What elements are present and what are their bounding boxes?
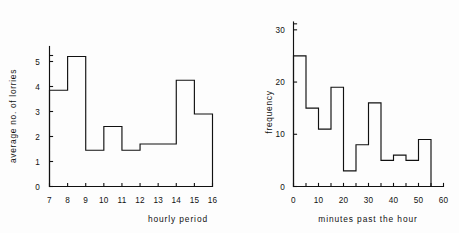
x-axis-tick-label: 14 [172,196,182,205]
x-axis-tick-label: 9 [83,196,88,205]
x-axis-tick-label: 10 [99,196,109,205]
x-axis-tick-label: 30 [364,196,374,205]
x-axis-tick-label: 0 [291,196,296,205]
x-axis-tick-label: 13 [153,196,163,205]
y-axis-tick-label: 20 [275,78,285,87]
x-axis-tick-label: 10 [314,196,324,205]
x-axis-tick-label: 7 [47,196,52,205]
x-axis-tick-label: 60 [439,196,449,205]
y-axis-tick-label: 1 [35,158,40,167]
y-axis-tick-label: 3 [35,108,40,117]
x-axis-tick-label: 15 [190,196,200,205]
two-panel-histogram-figure: 01234578910111213141516hourly periodaver… [0,0,459,233]
x-axis-tick-label: 20 [339,196,349,205]
x-axis-title: minutes past the hour [318,214,417,224]
y-axis-tick-label: 10 [275,130,285,139]
figure-root: 01234578910111213141516hourly periodaver… [0,0,459,233]
histogram-outline [294,56,432,187]
y-axis-tick-label: 0 [280,183,285,192]
x-axis-tick-label: 11 [117,196,126,205]
chart-panel-lorries: 01234578910111213141516hourly periodaver… [8,47,217,225]
y-axis-tick-label: 5 [35,58,40,67]
y-axis-tick-label: 30 [275,26,285,35]
x-axis-title: hourly period [148,214,208,224]
y-axis-tick-label: 4 [35,83,40,92]
x-axis-tick-label: 16 [208,196,218,205]
y-axis-tick-label: 0 [35,183,40,192]
y-axis-title: average no. of lorries [8,69,18,163]
x-axis-tick-label: 40 [389,196,399,205]
y-axis-title: frequency [264,90,274,133]
chart-panel-minutes: 01020300102030405060minutes past the hou… [264,22,448,224]
histogram-outline [50,57,213,187]
x-axis-tick-label: 8 [65,196,70,205]
x-axis-tick-label: 50 [414,196,424,205]
y-axis-tick-label: 2 [35,133,40,142]
x-axis-tick-label: 12 [135,196,145,205]
